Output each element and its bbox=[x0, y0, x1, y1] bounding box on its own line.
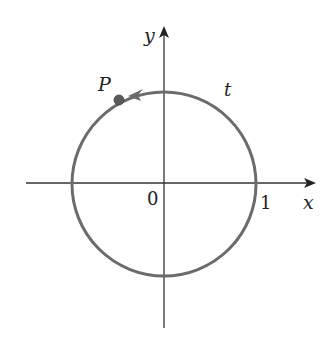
origin-label: 0 bbox=[147, 188, 158, 209]
x-intercept-label: 1 bbox=[260, 192, 271, 213]
arc-length-label: t bbox=[224, 79, 232, 100]
unit-circle-diagram: y P t 0 1 x bbox=[0, 0, 330, 337]
point-p bbox=[114, 95, 124, 105]
y-axis-label: y bbox=[143, 24, 155, 46]
point-p-label: P bbox=[97, 73, 112, 95]
x-axis-label: x bbox=[303, 191, 314, 213]
